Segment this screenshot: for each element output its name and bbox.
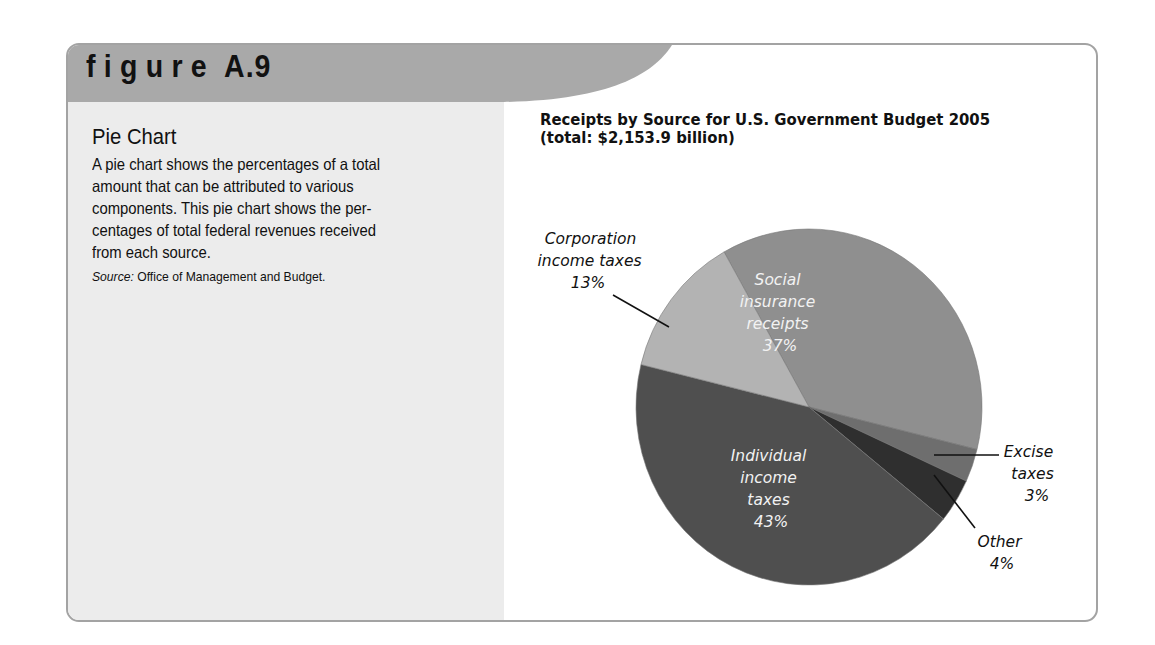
figure-frame: figureA.9 Pie Chart A pie chart shows th…	[66, 43, 1098, 622]
leader-corporation	[613, 295, 669, 327]
pie-chart: Social insurance receipts 37% Excise tax…	[68, 45, 1096, 620]
label-corporation: Corporation income taxes 13%	[538, 230, 647, 292]
label-other: Other 4%	[978, 533, 1027, 573]
pie-slices	[636, 229, 982, 585]
label-excise: Excise taxes 3%	[1004, 443, 1059, 505]
